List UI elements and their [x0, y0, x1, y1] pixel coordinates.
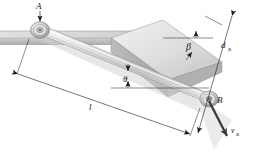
label-distance-db: d: [221, 40, 226, 50]
label-a-group: A: [35, 1, 42, 22]
label-distance-db-subscript: B: [228, 47, 231, 52]
figure-canvas: A B l θ β d B v B: [0, 0, 256, 160]
label-point-a: A: [35, 1, 42, 11]
label-point-b: B: [217, 95, 223, 105]
label-angle-theta: θ: [123, 74, 128, 84]
label-angle-beta: β: [185, 41, 191, 52]
label-b-group: B: [217, 95, 223, 105]
pin-joint-a: [31, 22, 50, 38]
label-velocity-vb: v: [231, 126, 235, 135]
pin-joint-b: [200, 91, 218, 107]
label-length-l: l: [89, 102, 92, 112]
label-velocity-vb-subscript: B: [236, 132, 239, 137]
mechanics-diagram: A B l θ β d B v B: [0, 0, 256, 160]
